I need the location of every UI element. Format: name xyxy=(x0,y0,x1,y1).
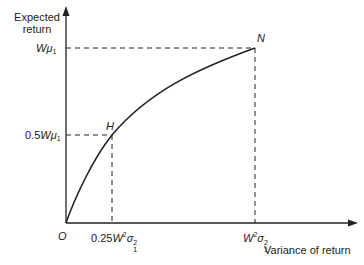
xtick-sigma: σ xyxy=(257,232,264,244)
ytick-w: W xyxy=(36,42,46,54)
ytick-mu-sub: 1 xyxy=(52,48,56,55)
guide-lines xyxy=(66,48,255,223)
xtick-quarter-num: 0.25 xyxy=(91,232,112,244)
xtick-sigma: σ xyxy=(127,232,134,244)
origin-label: O xyxy=(58,230,67,242)
y-axis-label: Expected return xyxy=(14,11,60,35)
ytick-mu-sub: 1 xyxy=(57,135,61,142)
ytick-w: W xyxy=(40,129,50,141)
xtick-sigma-sup: 2 xyxy=(133,239,137,246)
y-axis-arrow-icon xyxy=(63,6,70,16)
xtick-w: W xyxy=(243,232,253,244)
y-axis-label-line2: return xyxy=(14,23,60,35)
ytick-half: 0.5 xyxy=(25,129,40,141)
x-axis-arrow-icon xyxy=(348,220,358,227)
xtick-quarter: 0.25W2σ21 xyxy=(91,229,137,253)
y-axis-label-line1: Expected xyxy=(14,11,60,23)
xtick-sigma-sub: 1 xyxy=(133,246,137,253)
ytick-w-mu: Wμ1 xyxy=(36,42,56,58)
point-n-label: N xyxy=(257,32,265,44)
point-h-label: H xyxy=(106,120,114,132)
ytick-half-w-mu: 0.5Wμ1 xyxy=(25,129,61,145)
x-axis-label: Variance of return xyxy=(264,244,351,256)
xtick-w: W xyxy=(112,232,122,244)
xtick-sigma-scripts: 21 xyxy=(133,239,137,253)
